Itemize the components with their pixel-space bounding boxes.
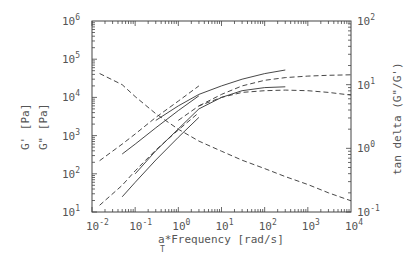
plot-border	[92, 21, 351, 212]
y-tick-label-left: 104	[62, 89, 80, 104]
y-tick-label-right: 100	[357, 140, 375, 155]
x-tick-label: 10-2	[86, 218, 109, 233]
x-tick-label: 103	[302, 218, 320, 233]
x-axis-title: a*Frequency [rad/s]	[158, 233, 284, 246]
axis-tick-labels: 10-210-110010110210310410110210310410510…	[62, 13, 380, 233]
x-tick-label: 104	[345, 218, 363, 233]
y-tick-label-left: 101	[62, 204, 80, 219]
plot-frame	[92, 21, 351, 212]
curve-5	[122, 96, 199, 154]
y-tick-label-right: 101	[357, 77, 375, 92]
x-tick-label: 10-1	[129, 218, 152, 233]
curve-7	[199, 75, 351, 106]
curve-8	[100, 74, 351, 201]
axis-ticks	[92, 21, 351, 212]
x-axis-title-suffix: *Frequency [rad/s]	[165, 233, 284, 246]
x-tick-label: 101	[216, 218, 234, 233]
curve-0	[100, 113, 199, 206]
y-tick-label-left: 102	[62, 166, 80, 181]
curve-1	[122, 117, 199, 196]
y-axis-title-gprime: G' [Pa]	[19, 104, 32, 150]
data-curves	[100, 70, 351, 205]
curve-3	[178, 90, 351, 120]
y-tick-label-right: 102	[357, 13, 375, 28]
y-tick-label-left: 106	[62, 13, 80, 28]
x-axis-title-subscript: T	[160, 245, 165, 254]
y-tick-label-left: 105	[62, 51, 80, 66]
x-tick-label: 100	[172, 218, 190, 233]
rheology-chart: 10-210-110010110210310410110210310410510…	[0, 0, 419, 261]
y-axis-title-gdoubleprime: G" [Pa]	[37, 104, 50, 150]
y-tick-label-right: 10-1	[357, 204, 380, 219]
y-tick-label-left: 103	[62, 128, 80, 143]
x-tick-label: 102	[259, 218, 277, 233]
y-axis-title-right: tan delta (G"/G')	[391, 62, 404, 175]
